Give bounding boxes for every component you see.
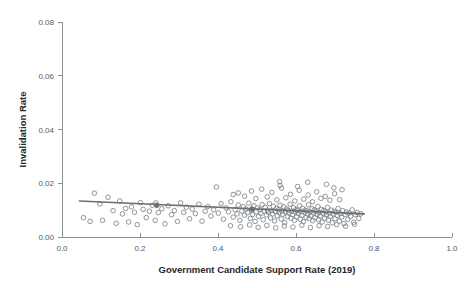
scatter-point xyxy=(123,206,128,211)
scatter-point xyxy=(135,222,140,227)
scatter-point xyxy=(144,215,149,220)
y-tick-label: 0.02 xyxy=(38,179,54,188)
x-axis-title: Government Candidate Support Rate (2019) xyxy=(159,264,356,275)
y-axis-title: Invalidation Rate xyxy=(17,91,28,167)
scatter-point xyxy=(81,215,86,220)
scatter-point xyxy=(219,201,224,206)
y-axis-ticks: 0.000.020.040.060.08 xyxy=(38,18,62,242)
scatter-point xyxy=(153,218,158,223)
scatter-point xyxy=(231,215,236,220)
scatter-point xyxy=(350,208,355,213)
scatter-point xyxy=(254,196,259,201)
scatter-point xyxy=(238,218,243,223)
scatter-point xyxy=(272,219,277,224)
scatter-point xyxy=(141,207,146,212)
scatter-point xyxy=(310,199,315,204)
scatter-point xyxy=(120,212,125,217)
scatter-point xyxy=(302,197,307,202)
scatter-point xyxy=(306,193,311,198)
x-tick-label: 0.6 xyxy=(290,244,302,253)
scatter-point xyxy=(160,206,165,211)
x-tick-label: 0.8 xyxy=(368,244,380,253)
scatter-point xyxy=(106,195,111,200)
scatter-point xyxy=(92,191,97,196)
scatter-point xyxy=(275,198,280,203)
scatter-point xyxy=(346,217,351,222)
scatter-point xyxy=(305,180,310,185)
x-tick-label: 0.0 xyxy=(56,244,68,253)
scatter-point xyxy=(284,195,289,200)
scatter-point xyxy=(236,203,241,208)
scatter-point xyxy=(193,211,198,216)
scatter-point xyxy=(163,222,168,227)
scatter-point xyxy=(181,210,186,215)
scatter-point xyxy=(253,219,258,224)
scatter-point xyxy=(100,218,105,223)
y-tick-label: 0.04 xyxy=(38,126,54,135)
scatter-point xyxy=(265,195,270,200)
x-tick-label: 1.0 xyxy=(446,244,458,253)
scatter-point xyxy=(328,198,333,203)
scatter-point xyxy=(324,182,329,187)
scatter-point xyxy=(356,216,361,221)
scatter-point xyxy=(261,218,266,223)
scatter-point xyxy=(129,205,134,210)
x-tick-label: 0.4 xyxy=(212,244,224,253)
y-tick-label: 0.06 xyxy=(38,72,54,81)
scatter-point xyxy=(88,219,93,224)
scatter-point xyxy=(238,224,243,229)
scatter-point xyxy=(314,190,319,195)
scatter-point xyxy=(337,197,342,202)
scatter-point xyxy=(332,186,337,191)
scatter-point xyxy=(333,216,338,221)
scatter-point xyxy=(264,223,269,228)
scatter-point xyxy=(297,204,302,209)
scatter-point xyxy=(228,223,233,228)
scatter-point xyxy=(332,191,337,196)
scatter-point xyxy=(247,223,252,228)
scatter-point xyxy=(216,211,221,216)
data-points xyxy=(81,179,363,230)
scatter-point xyxy=(190,207,195,212)
scatter-plot-figure: 0.000.020.040.060.08 0.00.20.40.60.81.0 … xyxy=(0,0,464,288)
scatter-point xyxy=(340,187,345,192)
axis-spines xyxy=(62,22,452,237)
scatter-point xyxy=(147,209,152,214)
scatter-point xyxy=(172,208,177,213)
scatter-point xyxy=(203,209,208,214)
scatter-point xyxy=(259,187,264,192)
scatter-point xyxy=(270,190,275,195)
chart-canvas: 0.000.020.040.060.08 0.00.20.40.60.81.0 … xyxy=(0,0,464,288)
scatter-point xyxy=(325,224,330,229)
scatter-point xyxy=(334,222,339,227)
scatter-point xyxy=(231,192,236,197)
scatter-point xyxy=(211,208,216,213)
scatter-point xyxy=(200,219,205,224)
scatter-point xyxy=(317,223,322,228)
y-tick-label: 0.08 xyxy=(38,18,54,27)
scatter-point xyxy=(273,226,278,231)
scatter-point xyxy=(209,214,214,219)
scatter-point xyxy=(256,225,261,230)
scatter-point xyxy=(226,209,231,214)
scatter-point xyxy=(236,191,241,196)
scatter-point xyxy=(235,212,240,217)
scatter-point xyxy=(178,201,183,206)
scatter-point xyxy=(242,194,247,199)
scatter-point xyxy=(156,210,161,215)
scatter-point xyxy=(132,210,137,215)
scatter-point xyxy=(323,194,328,199)
scatter-point xyxy=(249,189,254,194)
scatter-point xyxy=(288,192,293,197)
scatter-point xyxy=(187,216,192,221)
scatter-point xyxy=(229,199,234,204)
scatter-point xyxy=(111,208,116,213)
scatter-point xyxy=(293,199,298,204)
scatter-point xyxy=(221,217,226,222)
scatter-point xyxy=(126,220,131,225)
scatter-point xyxy=(242,213,247,218)
x-axis-ticks: 0.00.20.40.60.81.0 xyxy=(56,233,458,253)
scatter-point xyxy=(214,185,219,190)
scatter-point xyxy=(114,221,119,226)
scatter-point xyxy=(308,225,313,230)
